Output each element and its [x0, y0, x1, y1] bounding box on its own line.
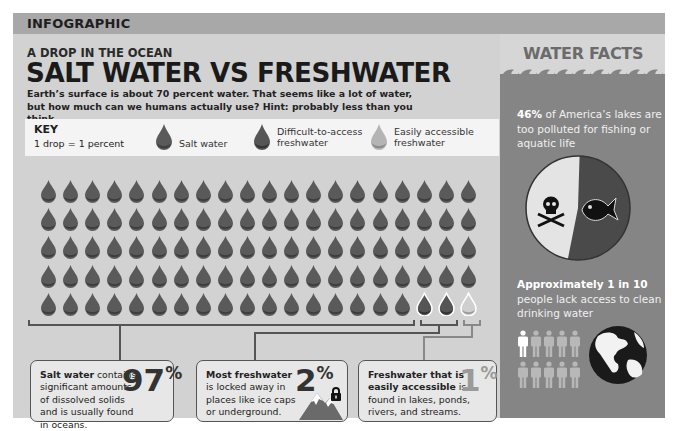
salt-water-drop	[416, 264, 433, 288]
salt-water-drop	[128, 235, 145, 259]
salt-water-drop	[349, 292, 366, 316]
salt-water-drop	[62, 292, 79, 316]
salt-water-drop	[195, 235, 212, 259]
difficult-connector-b	[254, 332, 440, 334]
key-item-salt-water: Salt water	[155, 123, 227, 151]
salt-water-drop	[305, 235, 322, 259]
salt-water-connector	[119, 325, 121, 360]
person-icon	[556, 330, 568, 358]
salt-water-drop	[106, 207, 123, 231]
water-facts-title: WATER FACTS	[523, 44, 643, 63]
section-bar: INFOGRAPHIC	[13, 13, 665, 34]
salt-water-drop	[327, 235, 344, 259]
salt-water-drop	[84, 207, 101, 231]
salt-water-drop	[151, 235, 168, 259]
salt-water-drop	[106, 292, 123, 316]
salt-water-drop	[416, 235, 433, 259]
salt-water-drop	[195, 179, 212, 203]
card-salt-water-percent: 97%	[122, 362, 182, 398]
accessible-connector-b	[423, 336, 473, 338]
card-accessible-freshwater-percent: 1%	[459, 362, 498, 398]
salt-water-drop	[151, 292, 168, 316]
salt-water-drop	[349, 264, 366, 288]
salt-water-drop	[372, 292, 389, 316]
waves-icon	[500, 64, 665, 86]
salt-water-drop	[40, 235, 57, 259]
salt-water-drop	[62, 235, 79, 259]
person-icon	[530, 330, 542, 358]
salt-water-drop	[438, 235, 455, 259]
person-icon	[569, 330, 581, 358]
salt-water-drop	[128, 179, 145, 203]
difficult-freshwater-drop	[416, 292, 433, 316]
salt-water-drop	[173, 292, 190, 316]
salt-water-drop	[173, 235, 190, 259]
salt-water-drop	[195, 207, 212, 231]
salt-water-drop	[239, 179, 256, 203]
accessible-freshwater-drop-icon	[370, 123, 388, 151]
person-icon	[517, 361, 529, 389]
difficult-freshwater-drop-icon	[253, 123, 271, 151]
salt-water-drop	[151, 179, 168, 203]
person-icon	[569, 361, 581, 389]
key-title: KEY	[34, 123, 58, 136]
salt-water-drop	[261, 264, 278, 288]
salt-water-drop	[62, 207, 79, 231]
salt-water-drop	[40, 207, 57, 231]
fact-polluted-lakes: 46% of America’s lakes are too polluted …	[517, 107, 662, 151]
salt-water-drop	[327, 179, 344, 203]
salt-water-drop	[460, 179, 477, 203]
person-icon	[543, 361, 555, 389]
salt-water-drop	[128, 264, 145, 288]
person-icon	[556, 361, 568, 389]
salt-water-drop	[217, 179, 234, 203]
polluted-lakes-pie-chart	[524, 154, 632, 262]
salt-water-drop	[349, 207, 366, 231]
salt-water-drop	[128, 292, 145, 316]
salt-water-drop	[84, 292, 101, 316]
salt-water-bracket	[28, 320, 415, 326]
salt-water-drop	[106, 235, 123, 259]
salt-water-drop	[327, 207, 344, 231]
salt-water-drop	[239, 207, 256, 231]
salt-water-drop	[84, 179, 101, 203]
salt-water-drop	[217, 207, 234, 231]
salt-water-drop	[84, 264, 101, 288]
salt-water-drop	[173, 207, 190, 231]
globe-icon	[588, 324, 648, 386]
salt-water-drop	[305, 179, 322, 203]
salt-water-drop	[128, 207, 145, 231]
salt-water-drop	[261, 207, 278, 231]
salt-water-drop	[438, 207, 455, 231]
salt-water-drop	[40, 179, 57, 203]
card-accessible-freshwater: Freshwater that is easily accessible is …	[358, 360, 497, 422]
key-item-difficult-freshwater: Difficult-to-accessfreshwater	[253, 123, 362, 151]
salt-water-drop	[349, 235, 366, 259]
person-icon	[543, 330, 555, 358]
salt-water-drop	[151, 207, 168, 231]
salt-water-drop	[195, 264, 212, 288]
salt-water-drop	[305, 292, 322, 316]
salt-water-drop	[239, 264, 256, 288]
salt-water-drop	[261, 235, 278, 259]
key-panel: KEY 1 drop = 1 percent Salt water Diffic…	[25, 119, 499, 156]
water-facts-sidebar: WATER FACTS 46% of America’s lakes are t…	[500, 34, 665, 418]
fact-drinking-water: Approximately 1 in 10 people lack access…	[517, 277, 667, 321]
salt-water-drop	[349, 179, 366, 203]
key-label-difficult-freshwater: Difficult-to-accessfreshwater	[277, 126, 362, 148]
salt-water-drop	[372, 179, 389, 203]
page-title: SALT WATER VS FRESHWATER	[26, 57, 451, 88]
accessible-connector-c	[423, 336, 425, 360]
salt-water-drop	[460, 264, 477, 288]
salt-water-drop	[327, 264, 344, 288]
salt-water-drop	[217, 264, 234, 288]
salt-water-drop	[394, 292, 411, 316]
salt-water-drop	[394, 179, 411, 203]
salt-water-drop	[416, 207, 433, 231]
salt-water-drop	[372, 235, 389, 259]
salt-water-drop	[283, 207, 300, 231]
salt-water-drop	[40, 264, 57, 288]
difficult-connector-c	[254, 332, 256, 360]
salt-water-drop-icon	[155, 123, 173, 151]
salt-water-drop	[217, 235, 234, 259]
